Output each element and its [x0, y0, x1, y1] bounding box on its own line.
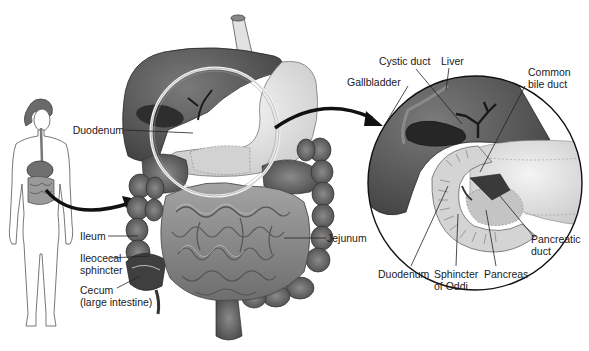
label-pancreatic-duct-line2: duct — [531, 245, 551, 257]
label-sphincter-line1: Sphincter — [434, 268, 478, 280]
inset-magnified-view — [356, 70, 589, 290]
label-inset-duodenum: Duodenum — [378, 268, 429, 280]
label-liver: Liver — [441, 55, 464, 67]
label-duodenum: Duodenum — [70, 124, 124, 136]
body-figure — [9, 99, 72, 326]
label-jejunum: Jejunum — [327, 232, 367, 244]
label-ileocecal-line1: Ileocecal — [80, 252, 121, 264]
label-cecum-line1: Cecum — [80, 284, 113, 296]
label-gallbladder: Gallbladder — [347, 76, 401, 88]
label-pancreatic-duct-line1: Pancreatic — [531, 233, 581, 245]
label-ileum: Ileum — [80, 230, 106, 242]
arrowhead-icon — [364, 111, 383, 126]
label-common-bile-line2: bile duct — [528, 78, 567, 90]
label-ileocecal-line2: sphincter — [80, 264, 123, 276]
label-sphincter-line2: of Oddi — [434, 280, 468, 292]
label-pancreas: Pancreas — [484, 268, 528, 280]
label-common-bile-line1: Common — [528, 66, 571, 78]
label-cecum-line2: (large intestine) — [80, 296, 152, 308]
digestive-diagram: Duodenum Ileum Ileocecal sphincter Cecum… — [0, 0, 589, 351]
label-cystic-duct: Cystic duct — [379, 55, 430, 67]
main-organs — [123, 15, 334, 340]
